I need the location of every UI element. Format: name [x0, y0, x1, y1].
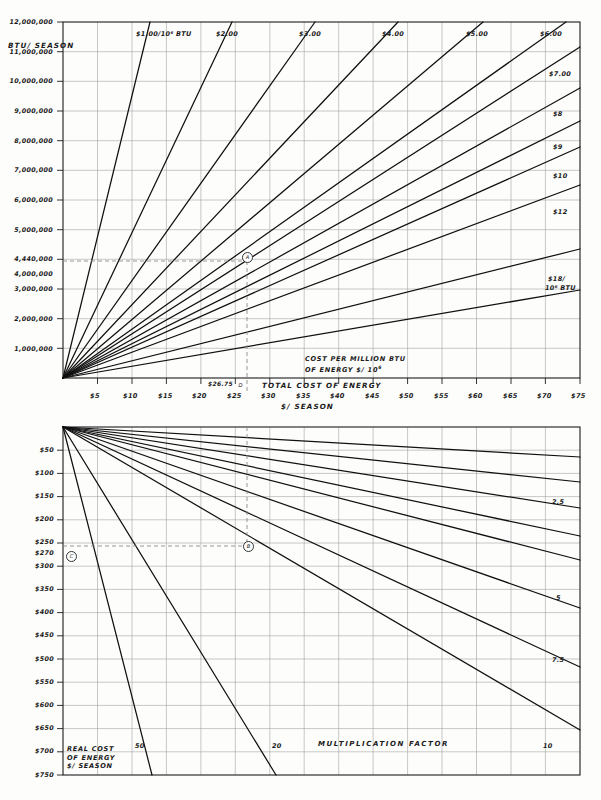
lower-y-tick-13: $700 — [14, 747, 54, 755]
upper-y-tick-5: 7,000,000 — [3, 166, 53, 174]
upper-x-tick-8: $45 — [365, 392, 380, 400]
upper-line-label-9: $9 — [553, 143, 563, 151]
lower-y-tick-4: $250 — [14, 538, 54, 546]
upper-y-tick-2: 10,000,000 — [3, 77, 53, 85]
upper-y-tick-0: 12,000,000 — [3, 18, 53, 26]
upper-x-tick-12: $65 — [503, 392, 518, 400]
nomograph-sheet: 12,000,000 11,000,000 10,000,000 9,000,0… — [0, 0, 601, 800]
upper-x-tick-6: $35 — [296, 392, 311, 400]
upper-y-tick-special: 4,440,000 — [3, 255, 53, 263]
upper-x-tick-1: $10 — [123, 392, 138, 400]
upper-y-tick-7: 5,000,000 — [3, 226, 53, 234]
lower-y-tick-1: $100 — [14, 469, 54, 477]
lower-y-tick-14: $750 — [14, 771, 54, 779]
lower-chart: $50 $100 $150 $200 $250 $270 $300 $350 $… — [0, 420, 601, 800]
upper-line-label-1: $1.00/10⁶ BTU — [136, 30, 192, 38]
lower-y-tick-marks — [57, 450, 63, 775]
upper-x-tick-special: $26.75 — [208, 380, 233, 387]
upper-y-tick-8: 4,000,000 — [3, 270, 53, 278]
upper-x-tick-0: $5 — [90, 392, 100, 400]
upper-x-tick-7: $40 — [330, 392, 345, 400]
lower-line-label-2-5: 2.5 — [552, 498, 564, 506]
upper-y-axis-title: BTU/ SEASON — [8, 41, 74, 50]
upper-y-tick-4: 8,000,000 — [3, 137, 53, 145]
lower-grid-vertical — [98, 427, 546, 775]
lower-y-axis-title-line3: $/ SEASON — [67, 762, 113, 770]
upper-line-label-10: $10 — [553, 172, 567, 180]
lower-line-label-7-5: 7.5 — [552, 656, 564, 664]
upper-x-tick-4: $25 — [227, 392, 242, 400]
lower-chart-label: MULTIPLICATION FACTOR — [318, 740, 449, 748]
lower-line-label-50: 50 — [135, 742, 145, 750]
upper-line-label-7: $7.00 — [549, 70, 571, 78]
upper-chart-svg — [0, 0, 601, 420]
upper-line-label-11: $12 — [553, 208, 567, 216]
lower-y-tick-5: $300 — [14, 562, 54, 570]
lower-y-tick-9: $500 — [14, 655, 54, 663]
lower-line-label-5: 5 — [556, 594, 561, 602]
upper-x-tick-14: $75 — [571, 392, 586, 400]
upper-x-tick-10: $55 — [434, 392, 449, 400]
upper-line-label-6: $6.00 — [540, 30, 562, 38]
upper-line-label-12: $18/ — [548, 275, 565, 283]
upper-y-tick-9: 3,000,000 — [3, 285, 53, 293]
lower-y-tick-6: $350 — [14, 585, 54, 593]
lower-chart-svg — [0, 420, 601, 800]
upper-center-note-sup: 6 — [378, 365, 382, 370]
upper-x-tick-2: $15 — [158, 392, 173, 400]
lower-y-tick-special: $270 — [14, 549, 54, 557]
lower-construction-lines — [63, 427, 250, 546]
lower-y-tick-10: $550 — [14, 678, 54, 686]
lower-y-tick-0: $50 — [14, 446, 54, 454]
upper-center-note-line2: OF ENERGY $/ 10 — [305, 366, 378, 374]
lower-line-label-20: 20 — [272, 742, 282, 750]
upper-center-note: COST PER MILLION BTU OF ENERGY $/ 106 — [305, 355, 406, 374]
upper-center-note-line1: COST PER MILLION BTU — [305, 355, 406, 363]
upper-line-label-12b: 10⁶ BTU — [545, 284, 576, 292]
lower-plot-frame — [63, 427, 580, 775]
lower-marker-c: C — [66, 551, 77, 562]
upper-y-tick-marks — [57, 22, 63, 348]
upper-x-tick-13: $70 — [537, 392, 552, 400]
upper-marker-d: D — [236, 381, 245, 390]
upper-x-tick-9: $50 — [399, 392, 414, 400]
upper-line-label-2: $2.00 — [216, 30, 238, 38]
lower-y-axis-title-line2: OF ENERGY — [67, 754, 115, 762]
upper-y-tick-10: 2,000,000 — [3, 315, 53, 323]
lower-y-tick-7: $400 — [14, 608, 54, 616]
lower-y-tick-11: $600 — [14, 701, 54, 709]
upper-x-axis-title-line2: $/ SEASON — [281, 402, 334, 411]
lower-y-tick-3: $200 — [14, 515, 54, 523]
upper-line-label-4: $4.00 — [382, 30, 404, 38]
lower-y-tick-8: $450 — [14, 631, 54, 639]
upper-line-label-3: $3.00 — [299, 30, 321, 38]
lower-y-tick-12: $650 — [14, 724, 54, 732]
upper-x-tick-5: $30 — [261, 392, 276, 400]
lower-marker-b: B — [243, 541, 254, 552]
lower-y-axis-title-line1: REAL COST — [67, 745, 114, 753]
upper-chart: 12,000,000 11,000,000 10,000,000 9,000,0… — [0, 0, 601, 420]
upper-y-tick-6: 6,000,000 — [3, 196, 53, 204]
lower-y-axis-title: REAL COST OF ENERGY $/ SEASON — [67, 745, 115, 771]
upper-marker-a: A — [242, 252, 253, 263]
upper-x-axis-title-line1: TOTAL COST OF ENERGY — [262, 381, 382, 390]
upper-x-tick-3: $20 — [192, 392, 207, 400]
upper-x-tick-11: $60 — [468, 392, 483, 400]
lower-y-tick-2: $150 — [14, 492, 54, 500]
lower-line-label-10: 10 — [543, 742, 553, 750]
upper-line-label-8: $8 — [553, 110, 563, 118]
upper-y-tick-3: 9,000,000 — [3, 107, 53, 115]
upper-y-tick-11: 1,000,000 — [3, 345, 53, 353]
upper-line-label-5: $5.00 — [466, 30, 488, 38]
lower-ray-lines — [63, 427, 580, 775]
